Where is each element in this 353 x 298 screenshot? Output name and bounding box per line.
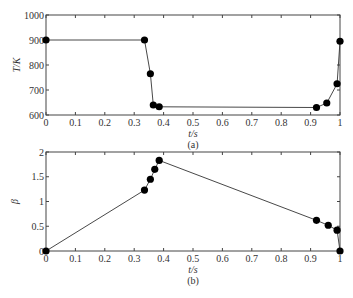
data-line: [46, 160, 340, 251]
x-tick-label: 0.4: [157, 117, 170, 128]
x-tick-label: 0: [44, 117, 49, 128]
panel-label: (b): [187, 275, 199, 287]
data-point: [333, 80, 340, 87]
data-line: [46, 40, 340, 108]
data-point: [42, 247, 49, 254]
plot-frame: [46, 152, 340, 251]
x-tick-label: 0.9: [304, 253, 317, 264]
y-tick-label: 700: [29, 85, 44, 96]
data-point: [323, 99, 330, 106]
x-tick-label: 0.5: [187, 253, 200, 264]
x-axis-label: t/s: [188, 264, 198, 275]
data-point: [333, 227, 340, 234]
x-tick-label: 0.2: [99, 117, 112, 128]
x-tick-label: 0.1: [69, 253, 82, 264]
x-tick-label: 0.9: [304, 117, 317, 128]
x-tick-label: 0.2: [99, 253, 112, 264]
plot-frame: [46, 15, 340, 115]
x-tick-label: 0.8: [275, 117, 288, 128]
y-tick-label: 1: [39, 196, 44, 207]
x-tick-label: 0.7: [246, 117, 259, 128]
data-point: [325, 222, 332, 229]
data-point: [156, 157, 163, 164]
y-tick-label: 1.5: [32, 171, 45, 182]
chart-svg: 00.10.20.30.40.50.60.70.80.9160070080090…: [0, 0, 353, 298]
figure: 00.10.20.30.40.50.60.70.80.9160070080090…: [0, 0, 353, 298]
data-point: [151, 166, 158, 173]
x-tick-label: 0.6: [216, 117, 229, 128]
y-tick-label: 600: [29, 110, 44, 121]
data-point: [336, 247, 343, 254]
y-tick-label: 1000: [24, 10, 44, 21]
data-point: [42, 36, 49, 43]
y-tick-label: 900: [29, 35, 44, 46]
panel-label: (a): [187, 139, 198, 151]
x-tick-label: 0.3: [128, 117, 141, 128]
x-tick-label: 0: [44, 253, 49, 264]
chart-panel-b: 00.10.20.30.40.50.60.70.80.9100.511.52βt…: [9, 147, 344, 288]
y-tick-label: 0.5: [32, 221, 45, 232]
data-point: [141, 36, 148, 43]
x-tick-label: 0.8: [275, 253, 288, 264]
x-tick-label: 1: [338, 253, 343, 264]
x-tick-label: 0.4: [157, 253, 170, 264]
x-axis-label: t/s: [188, 128, 198, 139]
y-axis-label: β: [9, 199, 20, 205]
data-point: [147, 176, 154, 183]
data-point: [336, 38, 343, 45]
data-point: [313, 217, 320, 224]
x-tick-label: 0.3: [128, 253, 141, 264]
x-tick-label: 1: [338, 117, 343, 128]
data-point: [313, 104, 320, 111]
x-tick-label: 0.6: [216, 253, 229, 264]
data-point: [147, 70, 154, 77]
x-tick-label: 0.5: [187, 117, 200, 128]
x-tick-label: 0.1: [69, 117, 82, 128]
x-tick-label: 0.7: [246, 253, 259, 264]
y-tick-label: 800: [29, 60, 44, 71]
data-point: [156, 103, 163, 110]
y-tick-label: 2: [39, 147, 44, 158]
chart-panel-a: 00.10.20.30.40.50.60.70.80.9160070080090…: [11, 10, 344, 152]
y-axis-label: T/K: [11, 56, 22, 72]
data-point: [141, 187, 148, 194]
